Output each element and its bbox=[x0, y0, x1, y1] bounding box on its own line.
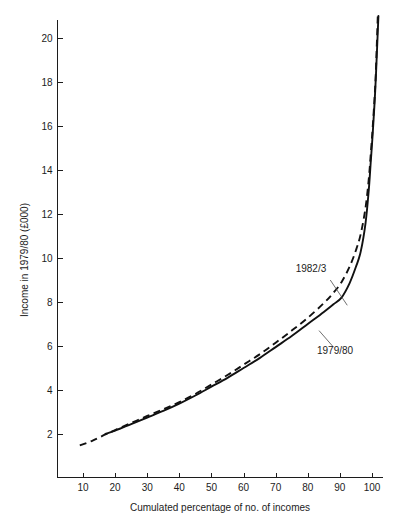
lorenz-income-curve-chart: 2468101214161820 102030405060708090100 1… bbox=[0, 0, 411, 527]
y-tick-label-16: 16 bbox=[41, 121, 53, 132]
x-tick-label-70: 70 bbox=[270, 482, 282, 493]
x-axis-tick-labels: 102030405060708090100 bbox=[77, 482, 380, 493]
x-tick-label-10: 10 bbox=[77, 482, 89, 493]
x-tick-label-50: 50 bbox=[206, 482, 218, 493]
y-tick-label-2: 2 bbox=[47, 429, 53, 440]
series-line-1982-3 bbox=[80, 16, 378, 445]
y-tick-label-18: 18 bbox=[41, 77, 53, 88]
y-tick-label-20: 20 bbox=[41, 33, 53, 44]
x-tick-label-60: 60 bbox=[238, 482, 250, 493]
x-axis-ticks bbox=[84, 473, 373, 478]
x-tick-label-80: 80 bbox=[302, 482, 314, 493]
y-axis-title: Income in 1979/80 (£000) bbox=[19, 203, 30, 317]
series-label-1979-80: 1979/80 bbox=[317, 345, 354, 356]
y-tick-label-8: 8 bbox=[47, 297, 53, 308]
x-tick-label-90: 90 bbox=[334, 482, 346, 493]
series-label-1982-3: 1982/3 bbox=[296, 263, 327, 274]
x-axis-title: Cumulated percentage of no. of incomes bbox=[130, 502, 310, 513]
x-tick-label-100: 100 bbox=[364, 482, 381, 493]
y-tick-label-4: 4 bbox=[47, 385, 53, 396]
y-axis-tick-labels: 2468101214161820 bbox=[41, 33, 53, 440]
y-tick-label-6: 6 bbox=[47, 341, 53, 352]
y-tick-label-10: 10 bbox=[41, 253, 53, 264]
y-axis-ticks bbox=[58, 39, 63, 435]
x-tick-label-40: 40 bbox=[174, 482, 186, 493]
x-tick-label-30: 30 bbox=[142, 482, 154, 493]
series-line-1979-80 bbox=[105, 16, 378, 434]
chart-figure: 2468101214161820 102030405060708090100 1… bbox=[0, 0, 411, 527]
y-tick-label-14: 14 bbox=[41, 165, 53, 176]
x-tick-label-20: 20 bbox=[110, 482, 122, 493]
series-annotations: 1982/31979/80 bbox=[296, 263, 354, 356]
y-tick-label-12: 12 bbox=[41, 209, 53, 220]
